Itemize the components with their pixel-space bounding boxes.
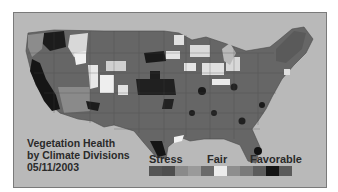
legend-swatch	[188, 166, 201, 176]
legend-swatch	[162, 166, 175, 176]
map-title: Vegetation Health by Climate Divisions 0…	[27, 137, 130, 173]
legend: Stress Fair Favorable	[149, 153, 309, 183]
legend-label-fair: Fair	[207, 153, 227, 165]
legend-swatch	[266, 166, 279, 176]
legend-color-scale	[149, 166, 292, 176]
title-line-1: Vegetation Health	[27, 137, 130, 149]
legend-swatch	[149, 166, 162, 176]
legend-swatch	[201, 166, 214, 176]
legend-label-favorable: Favorable	[250, 153, 302, 165]
title-line-2: by Climate Divisions	[27, 149, 130, 161]
legend-swatch	[175, 166, 188, 176]
legend-swatch	[214, 166, 227, 176]
legend-swatch	[279, 166, 292, 176]
legend-swatch	[227, 166, 240, 176]
legend-label-stress: Stress	[149, 153, 183, 165]
map-date: 05/11/2003	[27, 161, 130, 173]
legend-swatch	[240, 166, 253, 176]
legend-swatch	[253, 166, 266, 176]
map-frame: Vegetation Health by Climate Divisions 0…	[13, 12, 327, 188]
